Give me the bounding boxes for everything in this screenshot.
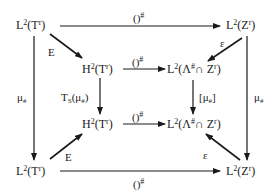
label-arrow-inner-top: ()#	[132, 56, 143, 68]
label-arrow-diag-bottom-right: ε	[203, 149, 208, 161]
label-arrow-diag-top-left: E	[48, 46, 55, 58]
label-arrow-diag-bottom-left: E	[65, 151, 72, 163]
node-bottom-right: L2(Zr)	[226, 164, 255, 178]
arrow-diag-bottom-right	[206, 134, 240, 160]
node-bottom-left: L2(Tr)	[16, 164, 45, 178]
label-arrow-inner-right: [μ#]	[199, 91, 216, 103]
label-arrow-inner-left: TS(μ#)	[61, 91, 88, 103]
label-arrow-left: μ#	[17, 91, 26, 103]
label-arrow-bottom: ()#	[133, 178, 144, 190]
label-arrow-right: μ#	[254, 91, 263, 103]
label-arrow-inner-bottom: ()#	[132, 111, 143, 123]
arrow-diag-top-right	[208, 38, 242, 61]
node-inner-top-left: H2(Tr)	[82, 62, 113, 76]
label-arrow-diag-top-right: ε	[220, 37, 225, 49]
node-inner-bottom-right: L2(Λ#∩ Zr)	[167, 117, 221, 131]
node-inner-bottom-left: H2(Tr)	[82, 117, 113, 131]
node-top-left: L2(Tr)	[16, 18, 45, 32]
node-inner-top-right: L2(Λ#∩ Zr)	[167, 62, 221, 76]
label-arrow-top: ()#	[133, 12, 144, 24]
node-top-right: L2(Zr)	[226, 18, 255, 32]
